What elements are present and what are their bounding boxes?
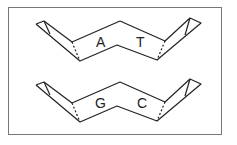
base-label-right: T <box>136 34 145 50</box>
base-pair-diagram: A T G C <box>0 0 237 145</box>
base-label-left: A <box>96 34 106 50</box>
base-label-left: G <box>95 95 106 111</box>
sugar-backbone-outline <box>36 18 201 61</box>
sugar-backbone-outline <box>36 79 201 122</box>
base-pair-at: A T <box>36 18 201 61</box>
base-label-right: C <box>137 95 147 111</box>
diagram-frame <box>9 8 222 135</box>
base-pair-gc: G C <box>36 79 201 122</box>
